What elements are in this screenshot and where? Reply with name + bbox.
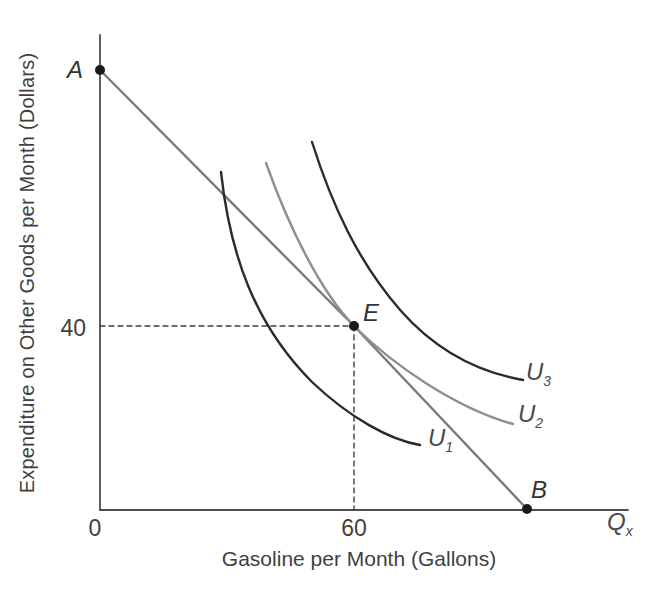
x-tick-0: 0 [89,515,102,542]
x-tick-60: 60 [341,515,367,542]
dot-e [349,321,359,331]
curve-label-u3-sub: 3 [543,373,551,389]
dot-b [522,504,532,514]
dot-a [95,65,105,75]
curve-label-u1: U1 [428,424,453,452]
curve-label-u2-sub: 2 [535,415,543,431]
curve-label-u3: U3 [526,358,551,386]
curve-label-u3-base: U [526,358,543,385]
curve-label-u2: U2 [518,400,543,428]
curve-label-u1-base: U [428,424,445,451]
curve-u1 [221,172,420,445]
indifference-curve-figure: Expenditure on Other Goods per Month (Do… [0,0,660,592]
x-axis-title: Gasoline per Month (Gallons) [222,547,496,571]
y-tick-40: 40 [60,315,86,342]
plot-canvas [0,0,660,592]
curve-label-u1-sub: 1 [445,439,453,455]
point-label-a: A [67,56,83,84]
qx-sub: x [626,523,633,539]
curve-label-u2-base: U [518,400,535,427]
point-label-e: E [363,299,379,327]
qx-base: Q [607,508,626,535]
curve-u2 [266,163,513,424]
budget-line-ab [100,70,527,509]
x-axis-end-label-qx: Qx [607,508,633,536]
y-axis-title: Expenditure on Other Goods per Month (Do… [16,53,39,494]
curve-u3 [312,142,523,380]
point-label-b: B [531,476,547,504]
